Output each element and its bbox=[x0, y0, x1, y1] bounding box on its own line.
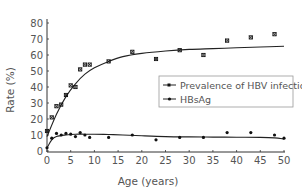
x-tick-label: 0 bbox=[44, 155, 50, 166]
y-tick-label: 50 bbox=[30, 66, 43, 77]
prevalence-point-x bbox=[131, 50, 134, 53]
hbsag-point bbox=[45, 146, 48, 149]
prevalence-point-x bbox=[226, 39, 229, 42]
prevalence-point-x bbox=[69, 84, 72, 87]
y-tick-label: 40 bbox=[30, 82, 43, 93]
hbsag-point bbox=[249, 131, 252, 134]
legend-x-marker-icon bbox=[168, 84, 171, 87]
x-tick-label: 35 bbox=[207, 155, 220, 166]
y-tick-label: 20 bbox=[30, 114, 43, 125]
y-axis-label: Rate (%) bbox=[4, 67, 16, 113]
hbsag-point bbox=[88, 136, 91, 139]
prevalence-point-x bbox=[55, 105, 58, 108]
x-tick-label: 25 bbox=[159, 155, 172, 166]
hbsag-point bbox=[178, 136, 181, 139]
legend-dot-marker-icon bbox=[168, 97, 171, 100]
y-tick-label: 60 bbox=[30, 50, 43, 61]
prevalence-point-x bbox=[249, 36, 252, 39]
hbsag-point bbox=[226, 131, 229, 134]
hbsag-point bbox=[202, 136, 205, 139]
x-tick-label: 30 bbox=[183, 155, 196, 166]
x-tick-label: 10 bbox=[88, 155, 101, 166]
hbsag-point bbox=[60, 133, 63, 136]
hbsag-point bbox=[69, 133, 72, 136]
prevalence-point-x bbox=[154, 57, 157, 60]
hbsag-point bbox=[282, 137, 285, 140]
y-tick-label: 80 bbox=[30, 18, 43, 29]
hbsag-point bbox=[55, 132, 58, 135]
y-tick-label: 0 bbox=[37, 146, 43, 157]
hbsag-fit-curve bbox=[47, 134, 284, 148]
x-tick-label: 50 bbox=[278, 155, 291, 166]
x-axis-label: Age (years) bbox=[118, 175, 179, 187]
hbsag-point bbox=[273, 133, 276, 136]
x-tick-label: 15 bbox=[112, 155, 125, 166]
hbsag-point bbox=[107, 136, 110, 139]
prevalence-point-x bbox=[273, 33, 276, 36]
prevalence-point-x bbox=[50, 116, 53, 119]
prevalence-point-x bbox=[83, 63, 86, 66]
x-tick-label: 40 bbox=[230, 155, 243, 166]
hbv-prevalence-chart: 0102030405060708005101520253035404550 Pr… bbox=[0, 0, 302, 194]
prevalence-point-x bbox=[74, 85, 77, 88]
hbsag-point bbox=[79, 131, 82, 134]
hbsag-point bbox=[154, 138, 157, 141]
legend: Prevalence of HBV infection HBsAg bbox=[159, 76, 302, 107]
y-tick-label: 10 bbox=[30, 130, 43, 141]
legend-label-hbsag: HBsAg bbox=[180, 94, 211, 105]
y-tick-label: 70 bbox=[30, 34, 43, 45]
hbsag-point bbox=[64, 132, 67, 135]
hbsag-point bbox=[83, 133, 86, 136]
x-tick-label: 20 bbox=[135, 155, 148, 166]
hbsag-point bbox=[131, 133, 134, 136]
legend-item-prevalence: Prevalence of HBV infection bbox=[163, 80, 302, 91]
hbsag-point bbox=[74, 135, 77, 138]
x-tick-label: 5 bbox=[68, 155, 74, 166]
prevalence-point-x bbox=[88, 63, 91, 66]
prevalence-point-x bbox=[79, 68, 82, 71]
prevalence-point-x bbox=[202, 53, 205, 56]
hbsag-point bbox=[50, 137, 53, 140]
y-tick-label: 30 bbox=[30, 98, 43, 109]
legend-label-prevalence: Prevalence of HBV infection bbox=[180, 80, 302, 91]
x-tick-label: 45 bbox=[254, 155, 267, 166]
